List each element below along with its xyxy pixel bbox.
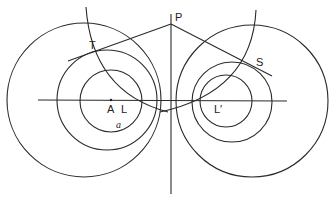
label-T: T (89, 39, 96, 51)
label-L: L (121, 103, 127, 115)
label-S: S (256, 56, 263, 68)
label-a: a (116, 119, 121, 130)
geometry-figure: P T S A L L′ a (0, 0, 333, 200)
horizontal-axis (38, 100, 287, 101)
tangent-line-PT (68, 24, 171, 61)
label-P: P (175, 11, 182, 23)
label-A: A (107, 103, 115, 115)
left-large-arc (86, 7, 168, 112)
point-A-marker (110, 99, 112, 101)
diagram: P T S A L L′ a (0, 0, 333, 200)
label-L-prime: L′ (214, 103, 222, 115)
